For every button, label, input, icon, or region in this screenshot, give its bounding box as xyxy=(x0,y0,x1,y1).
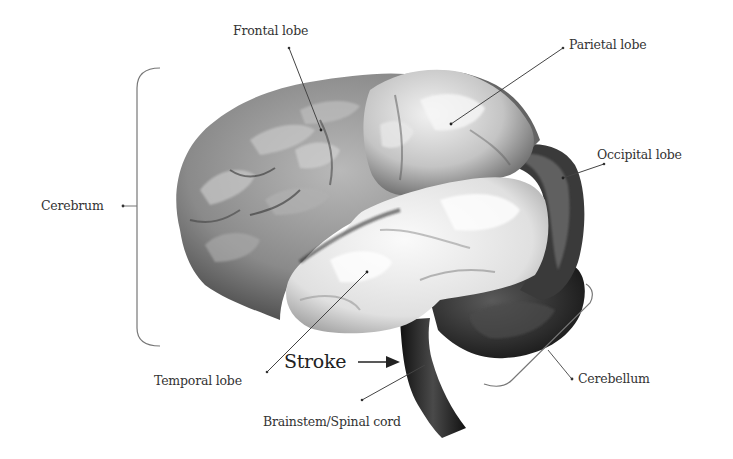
frontal-dot xyxy=(288,47,291,50)
frontal-target-dot xyxy=(320,129,323,132)
brainstem-label: Brainstem/Spinal cord xyxy=(263,414,401,429)
temporal-lobe-label: Temporal lobe xyxy=(154,373,242,388)
stroke-label: Stroke xyxy=(284,350,346,372)
occipital-lobe-label: Occipital lobe xyxy=(597,147,682,162)
parietal-dot xyxy=(562,47,565,50)
cerebrum-dot xyxy=(122,205,125,208)
occipital-target-dot xyxy=(562,177,565,180)
parietal-target-dot xyxy=(450,123,453,126)
parietal-lobe-label: Parietal lobe xyxy=(569,37,646,52)
cerebellum-label: Cerebellum xyxy=(578,371,650,386)
temporal-dot xyxy=(266,371,269,374)
stroke-arrow-icon xyxy=(358,356,400,368)
cerebellum-dot xyxy=(571,378,574,381)
brain-diagram xyxy=(0,0,733,459)
cerebrum-bracket xyxy=(137,68,160,346)
brainstem-dot xyxy=(361,399,364,402)
occipital-dot xyxy=(603,163,606,166)
frontal-lobe-label: Frontal lobe xyxy=(233,23,308,38)
temporal-target-dot xyxy=(366,271,369,274)
parietal-lobe-shape xyxy=(363,70,533,196)
cerebellum-bracket-tick xyxy=(548,350,571,378)
cerebrum-label: Cerebrum xyxy=(41,198,104,213)
